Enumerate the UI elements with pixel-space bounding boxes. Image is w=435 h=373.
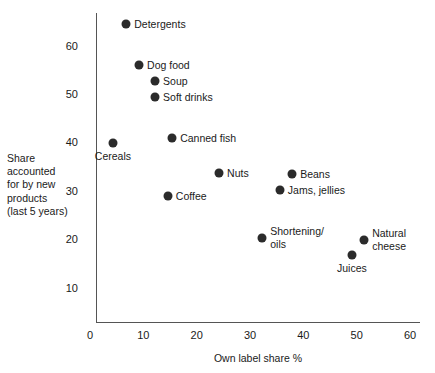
x-tick-50: 50 <box>344 330 370 341</box>
x-tick-10: 10 <box>130 330 156 341</box>
marker-jams-jellies[interactable] <box>275 185 284 194</box>
marker-nuts[interactable] <box>215 168 224 177</box>
data-point-label-soft-drinks: Soft drinks <box>163 91 213 104</box>
y-axis-title-line-2: for by new <box>7 178 91 191</box>
data-point-label-natural-cheese: Natural cheese <box>372 227 406 252</box>
data-point-label-canned-fish: Canned fish <box>180 132 236 145</box>
data-point-label-jams-jellies: Jams, jellies <box>288 183 345 196</box>
y-tick-10: 10 <box>52 283 78 294</box>
marker-soup[interactable] <box>151 76 160 85</box>
y-axis-title: Shareaccountedfor by newproducts(last 5 … <box>7 152 91 218</box>
marker-beans[interactable] <box>288 169 297 178</box>
data-point-label-coffee: Coffee <box>176 190 207 203</box>
y-tick-40: 40 <box>52 137 78 148</box>
data-point-label-juices: Juices <box>337 262 367 275</box>
y-tick-60: 60 <box>52 41 78 52</box>
data-point-label-dog-food: Dog food <box>147 59 190 72</box>
x-tick-30: 30 <box>237 330 263 341</box>
marker-coffee[interactable] <box>163 192 172 201</box>
marker-juices[interactable] <box>347 251 356 260</box>
data-point-label-beans: Beans <box>300 167 330 180</box>
y-axis-title-line-1: accounted <box>7 165 91 178</box>
data-point-label-cereals: Cereals <box>95 150 131 163</box>
marker-natural-cheese[interactable] <box>360 236 369 245</box>
data-point-label-nuts: Nuts <box>227 167 249 180</box>
x-tick-20: 20 <box>184 330 210 341</box>
x-tick-40: 40 <box>290 330 316 341</box>
data-point-label-detergents: Detergents <box>134 17 185 30</box>
scatter-chart: 102030405060 0102030405060 Shareaccounte… <box>0 0 435 373</box>
y-axis-title-line-4: (last 5 years) <box>7 205 91 218</box>
marker-soft-drinks[interactable] <box>151 92 160 101</box>
marker-shortening-oils[interactable] <box>258 234 267 243</box>
y-axis-title-line-0: Share <box>7 152 91 165</box>
marker-cereals[interactable] <box>108 139 117 148</box>
data-point-label-shortening-oils: Shortening/ oils <box>270 226 324 251</box>
marker-dog-food[interactable] <box>135 60 144 69</box>
y-tick-20: 20 <box>52 234 78 245</box>
marker-canned-fish[interactable] <box>168 133 177 142</box>
marker-detergents[interactable] <box>122 19 131 28</box>
x-tick-0: 0 <box>77 330 103 341</box>
y-tick-50: 50 <box>52 89 78 100</box>
y-axis-line <box>96 13 97 323</box>
x-tick-60: 60 <box>397 330 423 341</box>
x-axis-line <box>96 322 420 323</box>
x-axis-title: Own label share % <box>96 352 420 364</box>
data-point-label-soup: Soup <box>163 75 188 88</box>
y-axis-title-line-3: products <box>7 192 91 205</box>
